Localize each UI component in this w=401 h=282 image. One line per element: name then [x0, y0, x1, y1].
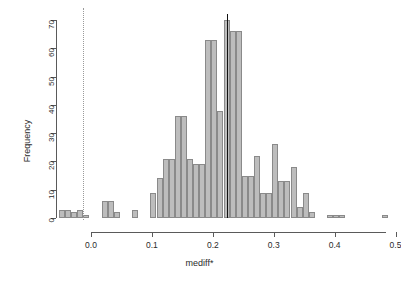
x-axis-tick-label: 0.5: [390, 241, 401, 250]
x-axis-tick: [152, 232, 153, 237]
histogram-bar: [339, 215, 345, 218]
x-axis-tick: [335, 232, 336, 237]
y-axis-tick-label: 70: [48, 20, 56, 29]
y-axis-tick-label: 40: [48, 105, 56, 114]
histogram-bars: [56, 20, 391, 218]
x-axis-tick-label: 0.2: [207, 241, 219, 250]
x-axis-tick: [91, 232, 92, 237]
x-axis-tick-label: 0.0: [85, 241, 97, 250]
histogram-bar: [132, 210, 138, 218]
x-axis-tick-label: 0.1: [146, 241, 158, 250]
y-axis-tick-label: 0: [48, 218, 56, 222]
y-axis-tick-label: 10: [48, 190, 56, 199]
y-axis-tick-label: 20: [48, 161, 56, 170]
y-axis-tick-label: 60: [48, 48, 56, 57]
x-axis: 0.00.10.20.30.40.5: [91, 232, 386, 233]
histogram-bar: [309, 212, 315, 218]
x-axis-tick-label: 0.3: [268, 241, 280, 250]
histogram-bar: [114, 212, 120, 218]
x-axis-tick: [396, 232, 397, 237]
y-axis-tick-label: 50: [48, 77, 56, 86]
y-axis-label: Frequency: [22, 120, 32, 163]
x-axis-label: mediff*: [0, 258, 399, 268]
y-axis-tick-label: 30: [48, 133, 56, 142]
observed-statistic-line: [227, 14, 228, 218]
x-axis-tick-label: 0.4: [329, 241, 341, 250]
histogram-bar: [382, 215, 388, 218]
x-axis-tick: [274, 232, 275, 237]
zero-reference-line: [83, 8, 84, 220]
plot-area: [56, 20, 391, 218]
x-axis-tick: [213, 232, 214, 237]
